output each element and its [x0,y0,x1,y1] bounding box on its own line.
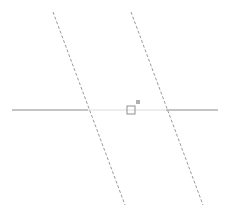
right-dashed-line [131,12,203,205]
square-marker-badge [136,100,140,104]
figure-canvas [0,0,227,210]
geometry-figure [0,0,227,210]
left-dashed-line [53,12,125,205]
